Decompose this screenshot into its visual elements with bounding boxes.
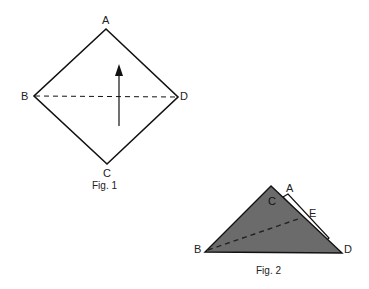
origami-diagram: A B D C Fig. 1 A C E B D Fig. 2 — [0, 0, 369, 289]
caption-fig-2: Fig. 2 — [256, 265, 281, 276]
label-a: A — [286, 182, 294, 194]
label-b: B — [21, 90, 28, 102]
label-d: D — [180, 90, 188, 102]
label-c: C — [268, 195, 276, 207]
label-c: C — [103, 167, 111, 179]
caption-fig-1: Fig. 1 — [92, 180, 117, 191]
figure-1: A B D C Fig. 1 — [21, 14, 188, 191]
label-d: D — [344, 243, 352, 255]
label-e: E — [309, 207, 316, 219]
figure-2: A C E B D Fig. 2 — [194, 182, 352, 276]
label-b: B — [194, 243, 201, 255]
label-a: A — [102, 14, 110, 26]
